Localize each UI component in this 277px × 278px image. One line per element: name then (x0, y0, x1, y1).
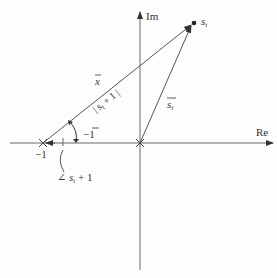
s-t-point-label: st (201, 15, 208, 29)
diagram-svg: Im Re st −1 x | st + 1 | st −1 ∠ st + 1 (0, 0, 277, 278)
angle-leader-line (60, 150, 64, 172)
complex-plane-diagram: Im Re st −1 x | st + 1 | st −1 ∠ st + 1 (0, 0, 277, 278)
x-vector-line (43, 25, 191, 143)
real-axis-label: Re (256, 126, 268, 138)
s-t-vector-line (140, 26, 191, 143)
minus-one-vector-label: −1 (83, 128, 95, 140)
s-t-vector-label: st (167, 98, 174, 112)
angle-arc (70, 122, 76, 141)
x-vector-magnitude-label: | st + 1 | (90, 87, 122, 116)
angle-arc-arrowhead-bottom (73, 139, 79, 143)
minus-one-point-label: −1 (35, 148, 47, 160)
imag-axis-label: Im (146, 10, 159, 22)
x-vector-label: x (94, 75, 100, 87)
angle-label: ∠ st + 1 (57, 171, 92, 185)
s-t-point-dot (192, 21, 197, 26)
